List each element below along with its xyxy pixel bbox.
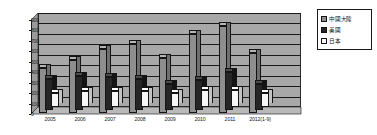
bar-top (51, 89, 59, 93)
bar-top (219, 22, 227, 26)
bar-side (89, 87, 93, 103)
bar-groups (31, 13, 301, 114)
plot-area: 0100200300400500600700800900 20052006200… (31, 13, 301, 114)
legend-swatch-usa (321, 27, 327, 33)
legend-swatch-china (321, 16, 327, 22)
bar-face (231, 90, 239, 107)
bar-face (141, 91, 149, 107)
bar (111, 91, 119, 107)
bar-top (249, 49, 257, 53)
bar-face (201, 90, 209, 107)
bar (81, 91, 89, 107)
bar-side (209, 86, 213, 103)
bar-top (171, 89, 179, 93)
bar-face (111, 91, 119, 107)
bar-top (165, 80, 173, 84)
legend-item-usa: 美國 (321, 24, 369, 35)
bar (171, 93, 179, 107)
bar-group (249, 13, 279, 114)
bar-top (225, 68, 233, 72)
bar-top (261, 89, 269, 93)
bar-group (39, 13, 69, 114)
bar (141, 91, 149, 107)
bar-top (111, 87, 119, 91)
x-tick-label: 2007 (104, 116, 115, 122)
bar-group (69, 13, 99, 114)
x-tick-label: 2008 (134, 116, 145, 122)
chart-legend: 中國大陸 美國 日本 (317, 9, 372, 50)
legend-item-china: 中國大陸 (321, 13, 369, 24)
bar-top (231, 86, 239, 90)
bar-top (99, 45, 107, 49)
bar-face (51, 93, 59, 107)
bar-side (59, 89, 63, 103)
bar-top (195, 76, 203, 80)
legend-label-china: 中國大陸 (329, 16, 352, 22)
bar-top (75, 72, 83, 76)
bar-group (159, 13, 189, 114)
bar-group (129, 13, 159, 114)
bar (51, 93, 59, 107)
bar-face (261, 93, 269, 107)
bar-side (119, 87, 123, 103)
bar-side (179, 89, 183, 103)
bar-side (239, 86, 243, 103)
bar-top (141, 87, 149, 91)
x-tick-label: 2009 (164, 116, 175, 122)
legend-swatch-japan (321, 38, 327, 44)
y-tick-mark (29, 114, 31, 115)
bar-top (105, 73, 113, 77)
legend-item-japan: 日本 (321, 35, 369, 46)
bar-chart: 0100200300400500600700800900 20052006200… (0, 0, 377, 135)
bar-group (219, 13, 249, 114)
bar (261, 93, 269, 107)
bar-top (255, 80, 263, 84)
bar-top (159, 54, 167, 58)
bar-face (171, 93, 179, 107)
bar-side (269, 89, 273, 103)
bar-top (39, 64, 47, 68)
x-tick-label: 2006 (74, 116, 85, 122)
legend-label-japan: 日本 (329, 38, 341, 44)
x-tick-label: 2012(1-9) (249, 116, 271, 122)
x-tick-label: 2011 (225, 116, 236, 122)
bar-side (149, 87, 153, 103)
x-tick-label: 2010 (194, 116, 205, 122)
bar-group (99, 13, 129, 114)
bar-face (81, 91, 89, 107)
bar-group (189, 13, 219, 114)
bar-top (129, 40, 137, 44)
x-tick-label: 2005 (44, 116, 55, 122)
bar-top (135, 75, 143, 79)
legend-label-usa: 美國 (329, 27, 341, 33)
bar-top (45, 75, 53, 79)
bar-top (189, 30, 197, 34)
bar-top (81, 87, 89, 91)
bar (201, 90, 209, 107)
bar (231, 90, 239, 107)
bar-top (69, 56, 77, 60)
bar-top (201, 86, 209, 90)
